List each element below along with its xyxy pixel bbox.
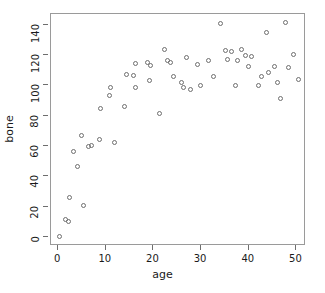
data-point [112,140,117,145]
y-axis-tick [43,145,48,146]
x-axis-title: age [0,268,325,281]
data-point [122,104,127,109]
y-axis-tick-label: 20 [30,206,41,219]
data-point [75,164,80,169]
data-point [283,20,288,25]
data-point [162,47,167,52]
data-point [98,106,103,111]
data-point [195,62,200,67]
x-axis-tick [57,245,58,250]
x-axis-tick [295,245,296,250]
x-axis-tick-label: 0 [54,253,60,264]
data-point [243,53,248,58]
data-point [296,77,301,82]
data-point [108,85,113,90]
data-point [229,49,234,54]
data-point [171,74,176,79]
y-axis-tick [43,54,48,55]
data-points-layer [51,14,304,244]
x-axis-tick [200,245,201,250]
y-axis-tick [43,236,48,237]
y-axis-tick [43,175,48,176]
data-point [168,60,173,65]
data-point [259,74,264,79]
data-point [266,70,271,75]
x-axis-tick-label: 30 [194,253,207,264]
data-point [218,21,223,26]
data-point [225,57,230,62]
data-point [211,74,216,79]
data-point [249,54,254,59]
data-point [81,203,86,208]
y-axis-title: bone [3,115,16,142]
data-point [97,137,102,142]
x-axis-tick-label: 50 [289,253,302,264]
data-point [275,80,280,85]
data-point [133,85,138,90]
x-axis-tick-label: 20 [146,253,159,264]
data-point [131,73,136,78]
data-point [198,83,203,88]
y-axis-tick-label: 120 [30,54,41,73]
y-axis-tick-label: 80 [30,115,41,128]
y-axis-tick [43,206,48,207]
data-point [188,87,193,92]
data-point [223,48,228,53]
data-point [67,195,72,200]
data-point [291,52,296,57]
data-point [206,58,211,63]
data-point [71,149,76,154]
plot-frame [50,13,305,245]
data-point [89,143,94,148]
y-axis-tick-label: 0 [30,236,41,242]
data-point [239,47,244,52]
data-point [181,85,186,90]
x-axis-tick [105,245,106,250]
data-point [233,83,238,88]
scatter-plot-screenshot: 020406080100120140 01020304050 age bone [0,0,325,293]
data-point [157,111,162,116]
x-axis-tick [152,245,153,250]
y-axis-tick-label: 40 [30,175,41,188]
data-point [148,63,153,68]
data-point [57,234,62,239]
data-point [133,61,138,66]
y-axis-tick [43,84,48,85]
data-point [235,58,240,63]
x-axis-tick [248,245,249,250]
x-axis-tick-label: 10 [98,253,111,264]
y-axis-tick-label: 60 [30,145,41,158]
data-point [278,96,283,101]
y-axis-tick [43,24,48,25]
x-axis-tick-label: 40 [241,253,254,264]
y-axis-tick [43,115,48,116]
data-point [147,78,152,83]
data-point [107,93,112,98]
data-point [184,55,189,60]
data-point [79,133,84,138]
data-point [256,83,261,88]
y-axis-tick-label: 140 [30,24,41,43]
data-point [66,219,71,224]
data-point [286,65,291,70]
data-point [124,72,129,77]
x-axis-tick-labels: 01020304050 [50,250,305,266]
data-point [246,64,251,69]
y-axis-tick-label: 100 [30,84,41,103]
data-point [264,30,269,35]
data-point [272,64,277,69]
